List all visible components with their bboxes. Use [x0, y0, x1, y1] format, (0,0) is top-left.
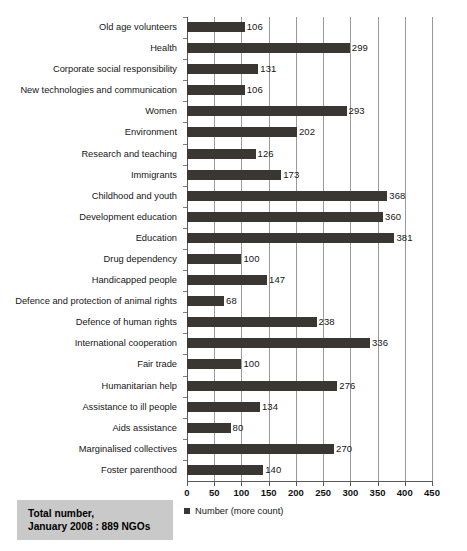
row-tick-mark	[183, 249, 187, 250]
row-tick-mark	[183, 59, 187, 60]
category-label: Drug dependency	[0, 249, 182, 270]
bar-row: 381	[187, 228, 432, 249]
bar-value-label: 106	[247, 82, 263, 97]
bar-row: 238	[187, 312, 432, 333]
bar	[187, 149, 256, 159]
bar-value-label: 276	[339, 378, 355, 393]
bar	[187, 170, 281, 180]
category-label: Health	[0, 38, 182, 59]
bar-row: 202	[187, 122, 432, 143]
bar	[187, 465, 263, 475]
row-tick-mark	[183, 186, 187, 187]
category-label: International cooperation	[0, 333, 182, 354]
bar	[187, 381, 337, 391]
category-label: New technologies and communication	[0, 80, 182, 101]
row-tick-mark	[183, 165, 187, 166]
bar-value-label: 140	[265, 462, 281, 477]
bar-row: 80	[187, 418, 432, 439]
x-tick-150	[269, 481, 270, 486]
row-tick-mark	[183, 144, 187, 145]
plot-area: 1062991311062932021261733683603811001476…	[187, 17, 432, 481]
x-tick-50	[214, 481, 215, 486]
category-label: Women	[0, 101, 182, 122]
bar-row: 106	[187, 17, 432, 38]
x-tick-400	[405, 481, 406, 486]
category-label: Environment	[0, 122, 182, 143]
bar-row: 147	[187, 270, 432, 291]
bar-value-label: 80	[233, 420, 244, 435]
row-tick-mark	[183, 397, 187, 398]
bar	[187, 106, 347, 116]
bar	[187, 233, 394, 243]
x-tick-label-350: 350	[370, 487, 386, 498]
x-tick-450	[432, 481, 433, 486]
bar-row: 131	[187, 59, 432, 80]
category-label: Assistance to ill people	[0, 397, 182, 418]
x-tick-label-250: 250	[315, 487, 331, 498]
chart-legend: Number (more count)	[184, 506, 283, 516]
category-label: Defence and protection of animal rights	[0, 291, 182, 312]
x-axis-line	[187, 481, 433, 482]
bar-value-label: 381	[396, 230, 412, 245]
x-tick-label-0: 0	[184, 487, 189, 498]
bar-row: 336	[187, 333, 432, 354]
row-tick-mark	[183, 418, 187, 419]
bar-value-label: 106	[247, 19, 263, 34]
category-label: Marginalised collectives	[0, 439, 182, 460]
bar	[187, 85, 245, 95]
category-label-column: Old age volunteersHealthCorporate social…	[0, 17, 182, 481]
bar-row: 106	[187, 80, 432, 101]
bar	[187, 127, 297, 137]
row-tick-mark	[183, 439, 187, 440]
bar-row: 276	[187, 376, 432, 397]
bar-row: 360	[187, 207, 432, 228]
bar	[187, 296, 224, 306]
x-tick-250	[323, 481, 324, 486]
bar-row: 100	[187, 354, 432, 375]
row-tick-mark	[183, 333, 187, 334]
category-label: Development education	[0, 207, 182, 228]
category-label: Handicapped people	[0, 270, 182, 291]
bar	[187, 275, 267, 285]
bar	[187, 338, 370, 348]
bar-value-label: 147	[269, 272, 285, 287]
row-tick-mark	[183, 270, 187, 271]
bar-value-label: 173	[283, 167, 299, 182]
bar-row: 173	[187, 165, 432, 186]
bar	[187, 359, 241, 369]
x-tick-200	[296, 481, 297, 486]
row-tick-mark	[183, 80, 187, 81]
bar	[187, 64, 258, 74]
bar-row: 368	[187, 186, 432, 207]
bar	[187, 444, 334, 454]
legend-label: Number (more count)	[195, 506, 283, 516]
row-tick-mark	[183, 354, 187, 355]
x-tick-label-200: 200	[288, 487, 304, 498]
bar-row: 68	[187, 291, 432, 312]
bar-row: 134	[187, 397, 432, 418]
bar	[187, 423, 231, 433]
row-tick-mark	[183, 228, 187, 229]
row-tick-mark	[183, 38, 187, 39]
row-tick-mark	[183, 376, 187, 377]
category-label: Research and teaching	[0, 144, 182, 165]
category-label: Education	[0, 228, 182, 249]
bar-value-label: 368	[389, 188, 405, 203]
bar-value-label: 360	[385, 209, 401, 224]
bar-value-label: 100	[243, 356, 259, 371]
bar	[187, 317, 317, 327]
bar	[187, 43, 350, 53]
row-tick-mark	[183, 291, 187, 292]
x-tick-label-50: 50	[209, 487, 220, 498]
bar-row: 100	[187, 249, 432, 270]
bar-row: 270	[187, 439, 432, 460]
x-tick-label-400: 400	[397, 487, 413, 498]
x-tick-label-300: 300	[342, 487, 358, 498]
row-tick-mark	[183, 207, 187, 208]
total-number-line-2: January 2008 : 889 NGOs	[28, 520, 173, 534]
x-tick-350	[378, 481, 379, 486]
bar	[187, 402, 260, 412]
bar-value-label: 126	[258, 146, 274, 161]
bar-value-label: 68	[226, 293, 237, 308]
bar-row: 140	[187, 460, 432, 481]
